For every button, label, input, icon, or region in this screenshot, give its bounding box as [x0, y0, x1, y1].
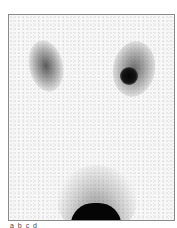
renal-hotspot — [120, 67, 138, 85]
figure-caption: a b c d — [10, 222, 38, 228]
scan-image-frame — [8, 14, 175, 221]
